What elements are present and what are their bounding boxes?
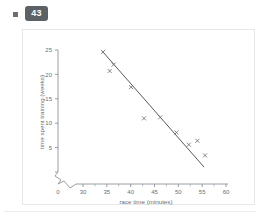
x-axis-break-icon bbox=[58, 181, 76, 188]
origin-tick-label: 0 bbox=[56, 189, 60, 195]
y-tick-label: 5 bbox=[49, 145, 53, 151]
y-tick-label: 25 bbox=[45, 47, 52, 53]
x-tick-label: 50 bbox=[175, 189, 182, 195]
screenshot-root: 43 510152025 30354045505560 0 time spent… bbox=[0, 0, 260, 219]
data-point bbox=[142, 116, 146, 120]
x-tick-label: 45 bbox=[151, 189, 158, 195]
data-point bbox=[108, 69, 112, 73]
trend-line bbox=[102, 51, 204, 167]
data-point bbox=[101, 50, 105, 54]
x-tick-label: 60 bbox=[223, 189, 230, 195]
line-of-best-fit bbox=[102, 51, 204, 167]
data-point bbox=[174, 130, 178, 134]
x-tick-label: 35 bbox=[103, 189, 110, 195]
data-point bbox=[187, 143, 191, 147]
data-point bbox=[129, 85, 133, 89]
x-tick-label: 30 bbox=[80, 189, 87, 195]
y-axis-ticks: 510152025 bbox=[45, 47, 58, 172]
x-axis-ticks: 30354045505560 bbox=[80, 184, 230, 195]
scatter-plot-svg: 510152025 30354045505560 0 time spent tr… bbox=[0, 0, 260, 219]
data-point bbox=[195, 139, 199, 143]
x-axis-label: race time (minutes) bbox=[120, 198, 173, 205]
data-point bbox=[158, 115, 162, 119]
y-tick-label: 10 bbox=[45, 120, 52, 126]
y-tick-label: 15 bbox=[45, 96, 52, 102]
y-axis-label: time spent training (weeks) bbox=[38, 75, 45, 149]
x-tick-label: 40 bbox=[127, 189, 134, 195]
scatter-plot: 510152025 30354045505560 0 time spent tr… bbox=[0, 0, 260, 219]
data-points bbox=[101, 50, 207, 157]
bottom-divider bbox=[4, 211, 256, 212]
data-point bbox=[203, 153, 207, 157]
x-tick-label: 55 bbox=[199, 189, 206, 195]
y-tick-label: 20 bbox=[45, 72, 52, 78]
y-axis-break-icon bbox=[55, 172, 61, 184]
data-point bbox=[112, 63, 116, 67]
